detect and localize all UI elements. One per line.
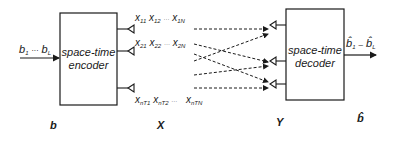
encoder-line2: encoder [60,59,117,72]
output-bits-label: b̂1 – b̂L [346,38,376,50]
channel-paths [194,29,268,88]
label-b: b [50,120,57,131]
decoder-label: space-time decoder [286,44,344,70]
encoder-line1: space-time [60,46,117,59]
rx-antennas [270,21,286,88]
tx-antennas [117,25,134,92]
encoder-label: space-time encoder [60,46,117,72]
label-Y: Y [276,117,283,128]
tx-row-nT: xnT1 xnT2 ··· xnTN [135,95,202,106]
label-b-hat: b̂ [357,113,364,124]
label-X: X [157,120,164,131]
decoder-line1: space-time [286,44,344,57]
input-bits-label: b1 ··· bL [19,44,51,56]
tx-row-1: x11 x12 ··· x1N [135,13,185,24]
decoder-line2: decoder [286,57,344,70]
tx-row-2: x21 x22 ··· x2N [135,38,185,49]
